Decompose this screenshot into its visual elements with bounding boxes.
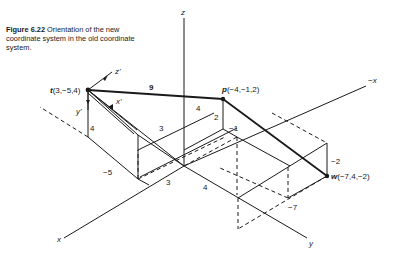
p-y-label: −1	[229, 124, 239, 133]
z-prime-label: z'	[114, 67, 121, 76]
t-x-label: 3	[159, 124, 164, 133]
point-w-marker	[325, 174, 329, 178]
p-height-label: 2	[214, 113, 219, 122]
origin-y-label: 4	[203, 183, 208, 192]
y-prime-label: y'	[75, 107, 82, 116]
t-y-label: −5	[103, 168, 113, 177]
z-axis-label: z	[180, 8, 185, 17]
distance-t-p-label: 9	[149, 83, 154, 92]
point-p-label: p(−4,−1,2)	[221, 85, 260, 94]
w-x-label: −7	[288, 203, 298, 212]
x-prime-label: x'	[115, 97, 122, 106]
t-height-label: 4	[90, 124, 95, 133]
point-w-label: w(−7,4,−2)	[331, 172, 370, 181]
y-axis-label: y	[308, 239, 314, 248]
p-x-label: 4	[196, 104, 201, 113]
w-height-label: −2	[331, 157, 341, 166]
coordinate-diagram: z x −x y t(3,−5,4) p(−4,−1,2) w(−7,4,−2)…	[0, 0, 396, 266]
y-prime-arrow-icon	[86, 100, 90, 104]
point-t-label: t(3,−5,4)	[50, 86, 81, 95]
point-t-marker	[86, 88, 91, 93]
neg-x-axis-label: −x	[368, 76, 378, 85]
origin-x-label: 3	[166, 178, 171, 187]
point-p-marker	[221, 97, 225, 101]
x-axis	[64, 166, 184, 238]
x-axis-label: x	[56, 235, 62, 244]
y-axis	[184, 166, 307, 238]
